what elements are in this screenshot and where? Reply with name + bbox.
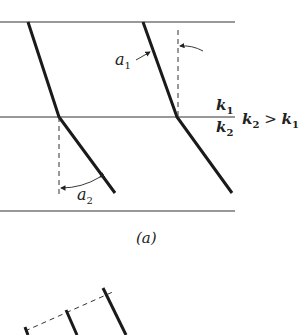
- condition-label: k2 > k1: [242, 110, 299, 130]
- flow-line-left: [28, 22, 115, 193]
- angle-a1-label: a1: [115, 50, 131, 71]
- k2-label: k2: [216, 118, 233, 138]
- panel-b-stroke-2: [66, 310, 77, 335]
- refraction-diagram: a1 a2 k1 k2 k2 > k1 (a): [0, 0, 308, 335]
- panel-b-dashed-line: [25, 291, 115, 331]
- panel-b-stroke-3: [103, 288, 126, 335]
- angle-a1-arrow-to-line: [136, 52, 150, 60]
- angle-a2-label: a2: [77, 185, 93, 206]
- k1-label: k1: [216, 96, 233, 116]
- angle-a1-arrow-to-normal: [180, 46, 203, 51]
- panel-b-stroke-1: [25, 327, 28, 335]
- panel-label-a: (a): [136, 229, 157, 247]
